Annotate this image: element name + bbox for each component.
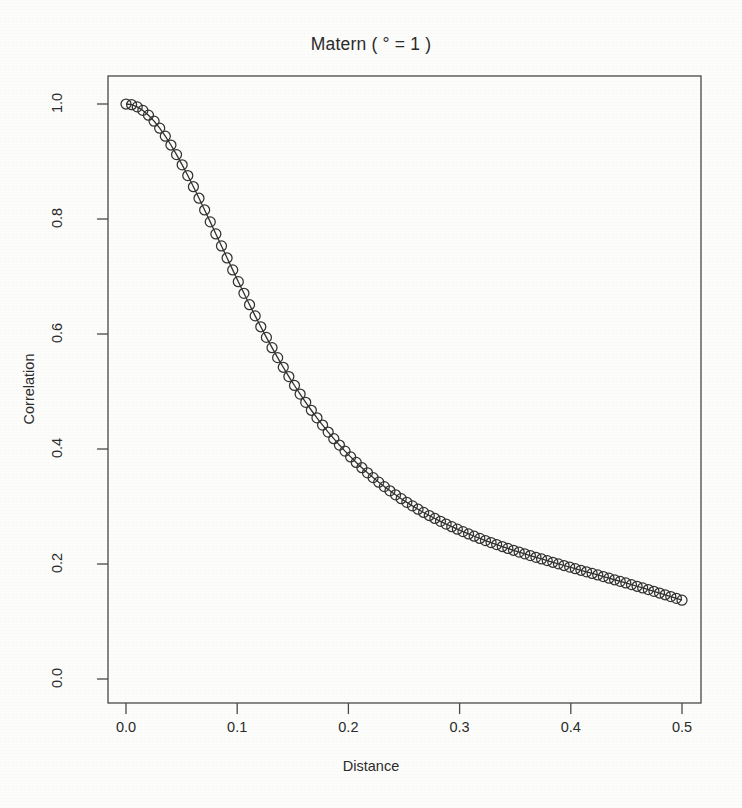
- data-series-markers: [121, 99, 687, 605]
- y-tick-label: 0.2: [49, 538, 65, 588]
- y-tick-label: 0.6: [49, 308, 65, 358]
- y-tick-label: 1.0: [49, 78, 65, 128]
- y-tick-label: 0.4: [49, 423, 65, 473]
- x-tick-label: 0.1: [212, 719, 262, 735]
- x-tick-label: 0.2: [323, 719, 373, 735]
- y-tick-label: 0.0: [49, 653, 65, 703]
- y-tick-label: 0.8: [49, 193, 65, 243]
- x-tick-label: 0.3: [435, 719, 485, 735]
- data-series-line: [126, 104, 682, 600]
- axis-tick-marks: [97, 104, 682, 714]
- plot-canvas: [0, 0, 742, 808]
- chart-figure: Matern ( ° = 1 ) 0.00.10.20.30.40.5 0.00…: [0, 0, 742, 808]
- plot-frame: [108, 76, 701, 703]
- x-tick-label: 0.4: [546, 719, 596, 735]
- x-tick-label: 0.5: [657, 719, 707, 735]
- x-tick-label: 0.0: [101, 719, 151, 735]
- y-axis-label: Correlation: [21, 299, 37, 479]
- x-axis-label: Distance: [0, 758, 742, 774]
- series-line: [126, 104, 682, 600]
